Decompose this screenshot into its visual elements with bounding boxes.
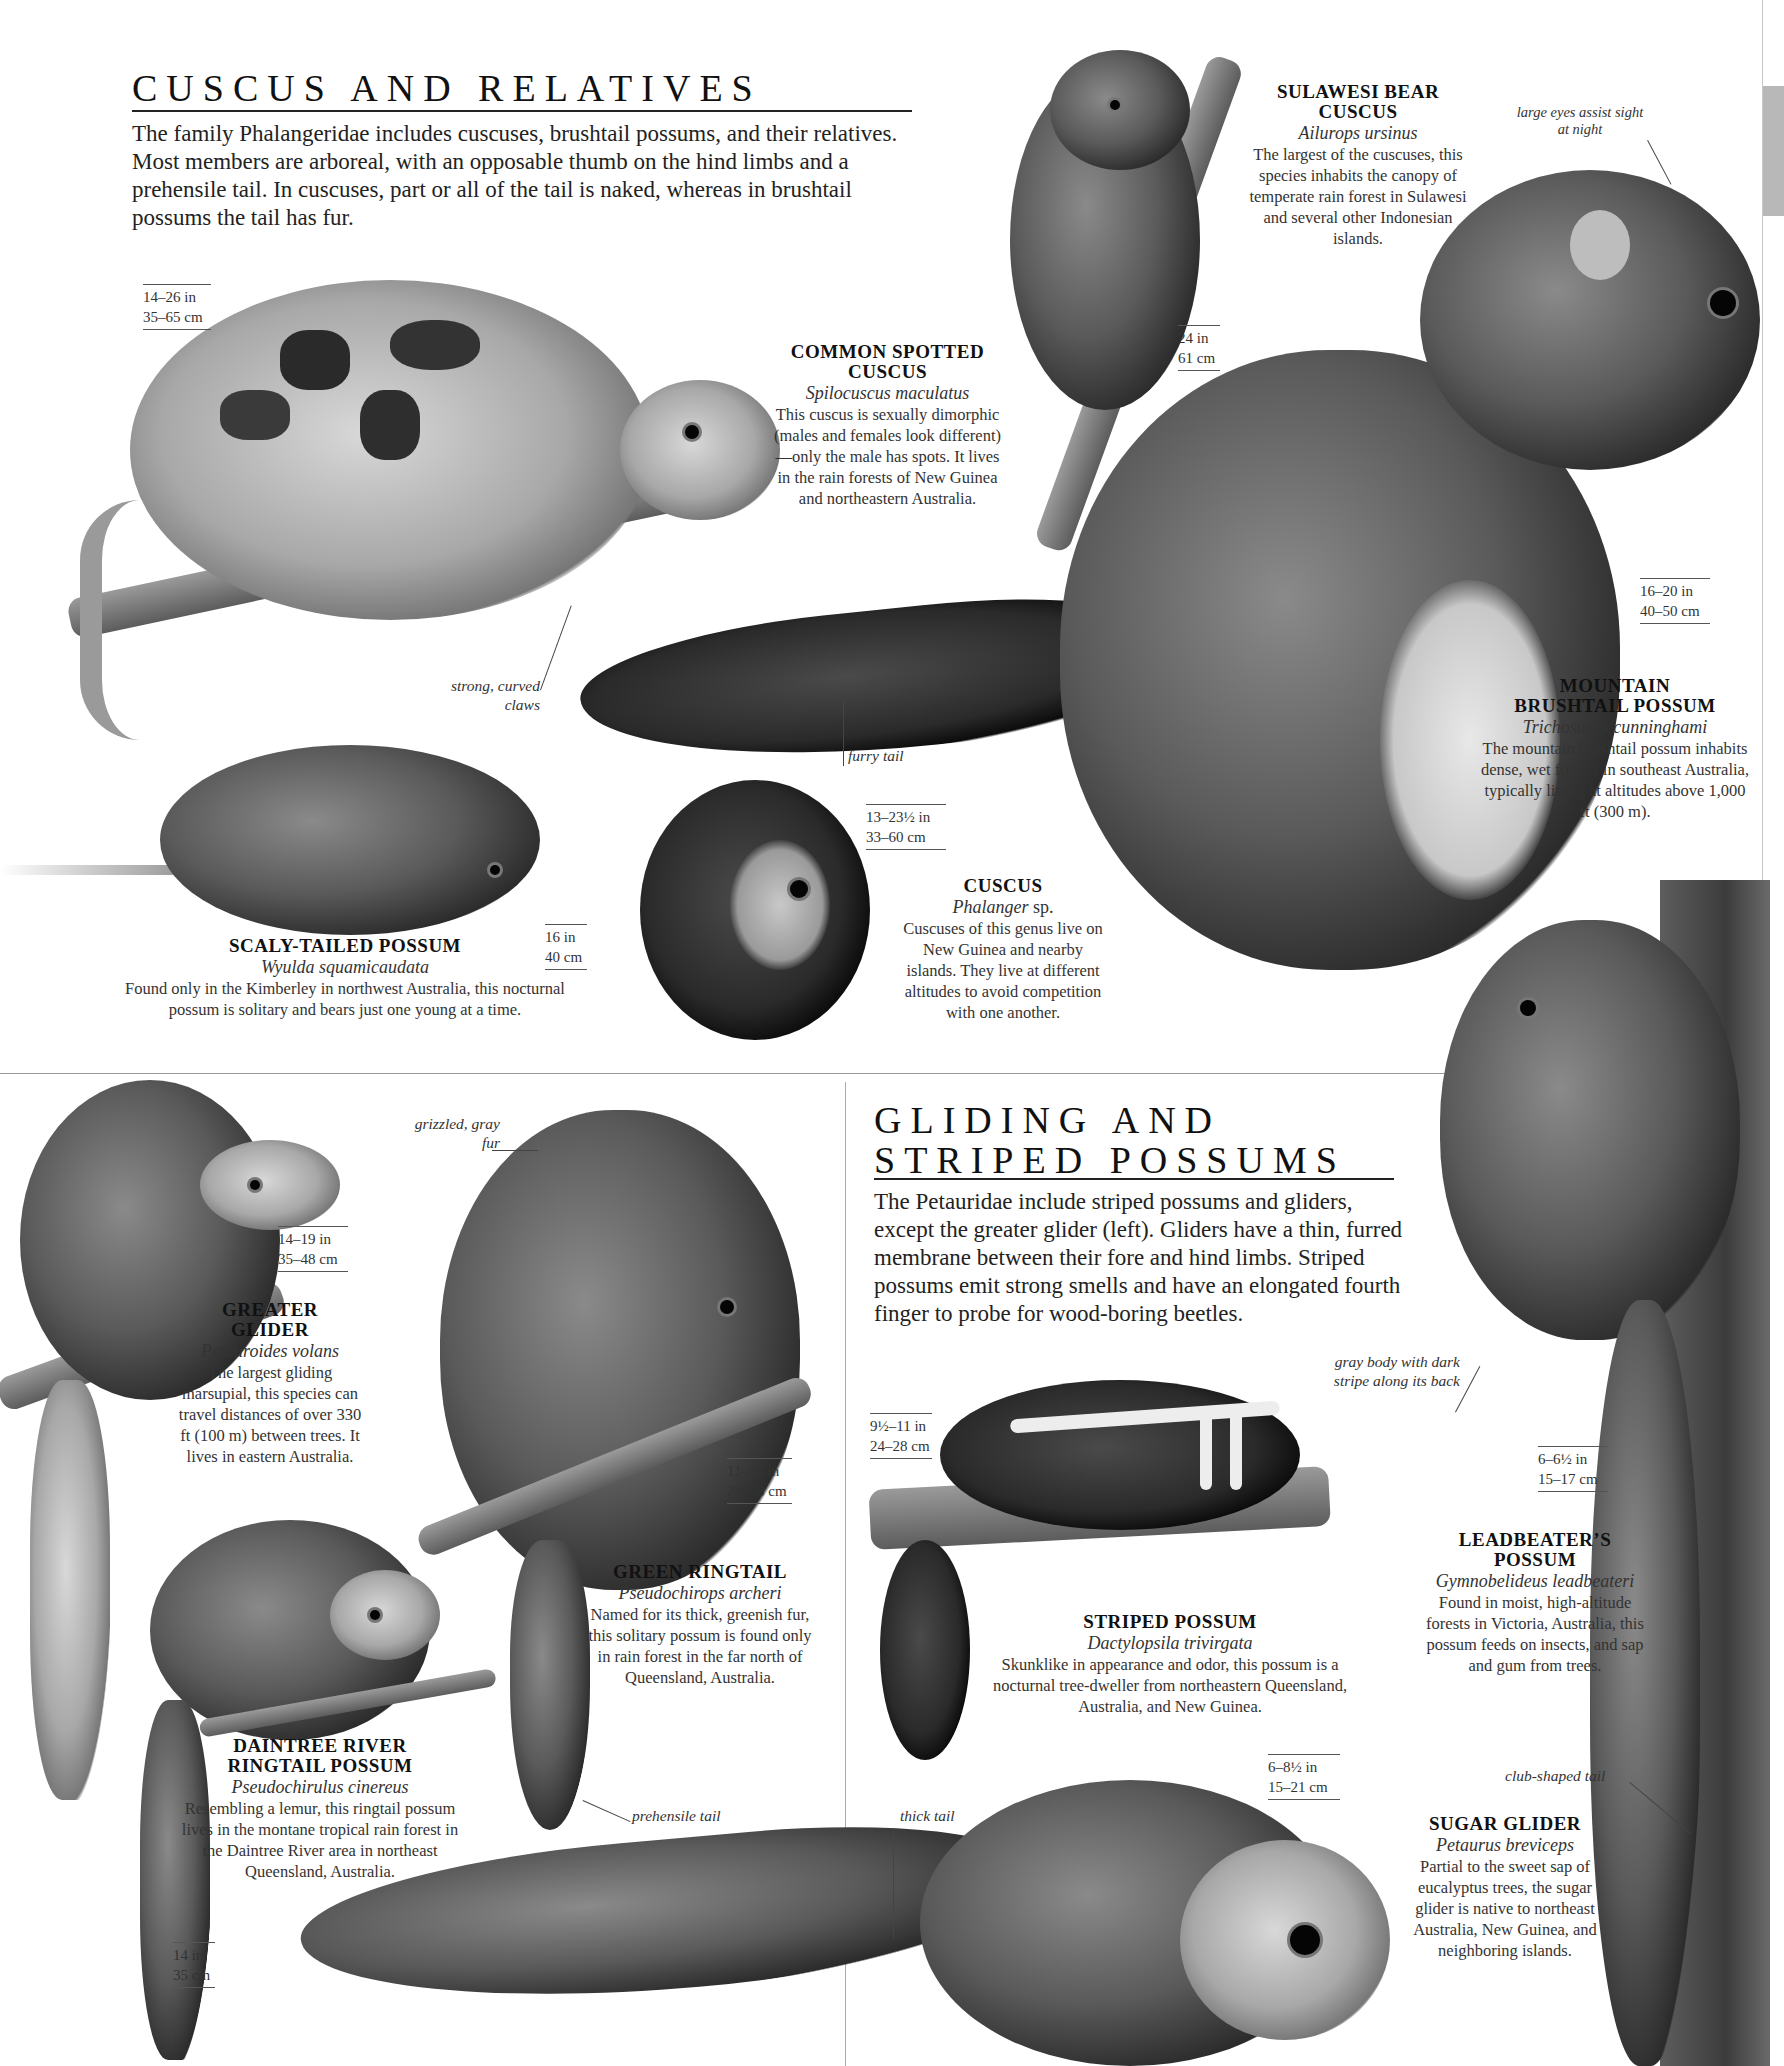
section-intro-gliding: The Petauridae include striped possums a… <box>874 1188 1404 1328</box>
annotation-thick-tail: thick tail <box>900 1806 955 1825</box>
brushtail-eye <box>1710 290 1736 316</box>
section-divider-horizontal <box>0 1073 1450 1074</box>
section-title-gliding: GLIDING AND STRIPED POSSUMS <box>874 1100 1474 1180</box>
annotation-large-eyes: large eyes assist sight at night <box>1510 104 1650 138</box>
species-cuscus: CUSCUS Phalanger sp. Cuscuses of this ge… <box>898 876 1108 1023</box>
section-title-rule <box>874 1178 1394 1180</box>
species-scaly-tailed-possum: SCALY-TAILED POSSUM Wyulda squamicaudata… <box>125 936 565 1020</box>
annotation-furry-tail: furry tail <box>848 746 904 765</box>
cuscus-image <box>640 780 880 1050</box>
sugar-glider-tail <box>295 1809 1025 2021</box>
size-label-leadbeaters-possum: 6–6½ in 15–17 cm <box>1538 1446 1608 1492</box>
section-title-rule <box>132 110 912 112</box>
annotation-grizzled-fur: grizzled, gray fur <box>410 1114 500 1152</box>
species-striped-possum: STRIPED POSSUM Dactylopsila trivirgata S… <box>975 1612 1365 1717</box>
leadbeater-body <box>1440 920 1740 1340</box>
greater-glider-tail <box>30 1380 110 1800</box>
size-label-sugar-glider: 6–8½ in 15–21 cm <box>1268 1754 1340 1800</box>
annotation-club-tail: club-shaped tail <box>1505 1766 1605 1785</box>
leadbeater-eye <box>1520 1000 1536 1016</box>
size-label-striped-possum: 9½–11 in 24–28 cm <box>870 1413 932 1459</box>
leader-line <box>893 1828 894 1938</box>
section-title-cuscus: CUSCUS AND RELATIVES <box>132 68 932 108</box>
annotation-strong-claws: strong, curved claws <box>430 676 540 714</box>
sugar-glider-eye <box>1290 1925 1320 1955</box>
sugar-glider-head <box>1180 1840 1390 2040</box>
size-label-cuscus: 13–23½ in 33–60 cm <box>866 804 946 850</box>
page-tab-marker <box>1763 86 1784 216</box>
phalanger-eye <box>790 880 808 898</box>
scaly-tailed-possum-image <box>0 745 560 935</box>
leader-line <box>843 700 844 766</box>
daintree-head <box>330 1570 440 1660</box>
species-leadbeaters-possum: LEADBEATER’S POSSUM Gymnobelideus leadbe… <box>1415 1530 1655 1676</box>
size-label-mountain-brushtail-possum: 16–20 in 40–50 cm <box>1640 578 1710 624</box>
size-label-daintree-river-ringtail-possum: 14 in 35 cm <box>173 1942 215 1988</box>
sugar-glider-image <box>300 1760 1400 2066</box>
striped-possum-tail <box>880 1540 970 1760</box>
species-greater-glider: GREATER GLIDER Petauroides volans The la… <box>175 1300 365 1467</box>
greater-glider-head <box>200 1140 340 1230</box>
size-label-greater-glider: 14–19 in 35–48 cm <box>278 1226 348 1272</box>
species-green-ringtail: GREEN RINGTAIL Pseudochirops archeri Nam… <box>580 1562 820 1688</box>
species-mountain-brushtail-possum: MOUNTAIN BRUSHTAIL POSSUM Trichosurus cu… <box>1480 676 1750 822</box>
size-label-green-ringtail: 11–15 in 28–38 cm <box>727 1458 792 1504</box>
species-sugar-glider: SUGAR GLIDER Petaurus breviceps Partial … <box>1400 1814 1610 1961</box>
scaly-tailed-body <box>160 745 540 935</box>
size-label-common-spotted-cuscus: 14–26 in 35–65 cm <box>143 284 211 330</box>
green-ringtail-eye <box>720 1300 734 1314</box>
leader-line <box>492 1150 538 1151</box>
